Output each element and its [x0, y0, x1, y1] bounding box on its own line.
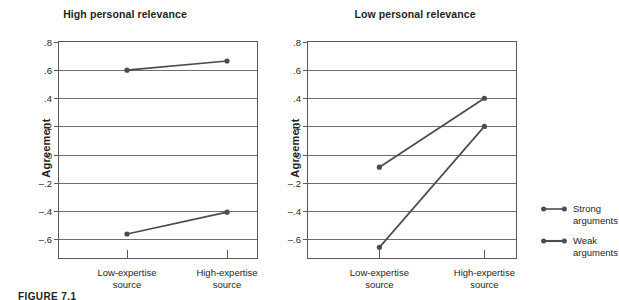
y-axis-tick-label: .8 — [293, 37, 301, 48]
chart-panel-low-personal-relevance: Low personal relevance Agreement .8.6.4.… — [280, 0, 540, 300]
series-line-weak-arguments — [127, 212, 227, 234]
x-tick-line2: source — [470, 279, 499, 290]
x-axis-tick-label: Low-expertisesource — [334, 267, 424, 291]
legend-swatch-icon — [541, 235, 567, 248]
series-line-weak-arguments — [379, 126, 484, 247]
data-point-weak-arguments — [124, 231, 129, 236]
figure-caption-label: FIGURE 7.1 — [18, 291, 76, 300]
y-axis-tick-label: 0 — [296, 149, 301, 160]
plot-area-low: .8.6.4.20–.2–.4–.6Low-expertisesourceHig… — [307, 41, 517, 259]
legend-item-weak-arguments[interactable]: Weakarguments — [541, 235, 619, 258]
y-axis-tick-label: 0 — [47, 149, 52, 160]
y-axis-tick-label: –.4 — [39, 205, 52, 216]
legend-swatch-icon — [541, 203, 567, 216]
data-point-strong-arguments — [482, 96, 487, 101]
panel-title-low: Low personal relevance — [300, 8, 530, 20]
data-point-strong-arguments — [124, 68, 129, 73]
y-axis-tick-label: .2 — [293, 121, 301, 132]
legend-label-line1: Weak — [573, 235, 597, 246]
y-axis-tick-label: –.4 — [288, 205, 301, 216]
y-axis-tick-label: –.2 — [288, 177, 301, 188]
series-line-strong-arguments — [379, 98, 484, 167]
x-axis-tick-label: High-expertisesource — [439, 267, 529, 291]
x-tick-line2: source — [213, 279, 242, 290]
x-tick-line1: High-expertise — [196, 267, 257, 278]
y-axis-tick-label: –.2 — [39, 177, 52, 188]
x-tick-line1: Low-expertise — [350, 267, 409, 278]
data-point-weak-arguments — [377, 245, 382, 250]
y-axis-tick-label: .4 — [293, 93, 301, 104]
legend-label: Weakarguments — [573, 235, 618, 258]
x-axis-tick-label: Low-expertisesource — [82, 267, 172, 291]
series-line-strong-arguments — [127, 61, 227, 70]
x-tick-line1: Low-expertise — [97, 267, 156, 278]
legend-label-line2: arguments — [573, 247, 618, 258]
legend-label: Strongarguments — [573, 203, 618, 226]
x-axis-tick-label: High-expertisesource — [182, 267, 272, 291]
data-point-strong-arguments — [377, 165, 382, 170]
y-axis-tick-label: .4 — [44, 93, 52, 104]
chart-legend: StrongargumentsWeakarguments — [541, 203, 619, 267]
x-tick-line1: High-expertise — [454, 267, 515, 278]
plot-area-high: .8.6.4.20–.2–.4–.6Low-expertisesourceHig… — [58, 41, 258, 259]
legend-label-line1: Strong — [573, 203, 601, 214]
y-axis-tick-label: .6 — [44, 65, 52, 76]
x-tick-line2: source — [365, 279, 394, 290]
panel-title-high: High personal relevance — [10, 8, 240, 20]
series-layer — [59, 42, 259, 260]
legend-label-line2: arguments — [573, 215, 618, 226]
data-point-weak-arguments — [482, 124, 487, 129]
x-tick-line2: source — [113, 279, 142, 290]
data-point-strong-arguments — [224, 58, 229, 63]
data-point-weak-arguments — [224, 210, 229, 215]
y-axis-tick-label: –.6 — [288, 233, 301, 244]
y-axis-tick-label: .6 — [293, 65, 301, 76]
legend-item-strong-arguments[interactable]: Strongarguments — [541, 203, 619, 226]
y-axis-tick-label: .2 — [44, 121, 52, 132]
series-layer — [308, 42, 518, 260]
y-axis-tick-label: .8 — [44, 37, 52, 48]
chart-panel-high-personal-relevance: High personal relevance Agreement .8.6.4… — [0, 0, 290, 300]
y-axis-tick-label: –.6 — [39, 233, 52, 244]
